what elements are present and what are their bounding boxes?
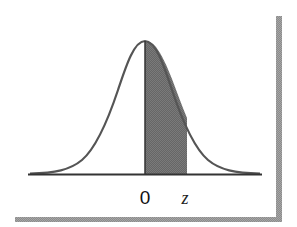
frame-shadow-right — [276, 16, 282, 222]
frame-shadow-bottom — [15, 217, 282, 222]
label-z: z — [180, 188, 188, 208]
label-zero: 0 — [140, 187, 151, 208]
normal-distribution-figure: 0 z — [0, 0, 297, 227]
shaded-area-0-to-z — [145, 41, 187, 174]
